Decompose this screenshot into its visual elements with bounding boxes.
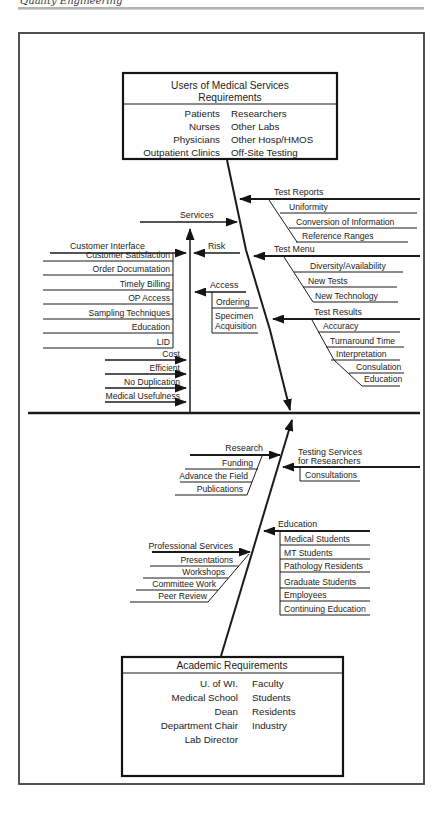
education-item: Pathology Residents [284,561,363,571]
bottom-box-item: Dean [215,706,238,717]
cost-item: No Duplication [124,377,180,387]
bottom-box-item: Lab Director [185,734,239,745]
research-item: Advance the Field [179,471,248,481]
top-box-item: Outpatient Clinics [143,147,220,158]
research-item: Publications [197,484,243,494]
top-box-item: Researchers [231,108,287,119]
test-reports-item: Reference Ranges [302,231,374,241]
bottom-box-item: Residents [252,706,296,717]
access-item: Ordering [216,297,250,307]
cost-branch-group: Cost Efficient No Duplication Medical Us… [105,349,186,402]
customer-interface-item-lines [43,261,173,348]
professional-services-label: Professional Services [148,541,233,551]
top-box-item: Nurses [189,121,220,132]
test-results-item: Education [364,374,402,384]
top-box-item: Patients [185,108,221,119]
access-item: Acquisition [215,321,257,331]
access-label: Access [210,280,239,290]
education-item: Medical Students [284,534,350,544]
test-menu-label: Test Menu [274,244,315,254]
test-reports-branch: Test Reports Uniformity Conversion of In… [240,187,420,242]
test-results-item: Interpretation [336,349,387,359]
test-menu-item: New Technology [315,291,379,301]
education-item: Employees [284,590,327,600]
test-reports-item: Uniformity [289,202,328,212]
bottom-box-item: Industry [252,720,287,731]
services-label: Services [180,210,214,220]
education-item: Continuing Education [284,604,366,614]
professional-services-branch: Professional Services Presentations Work… [130,541,250,602]
test-reports-label: Test Reports [274,187,324,197]
top-rule [18,7,424,10]
testing-services-label-line2: for Researchers [298,456,361,466]
bottom-box-item: U. of WI. [200,678,238,689]
cost-item: Cost [162,349,180,359]
top-box-title-line2: Requirements [198,92,261,103]
access-branch: Access Ordering Specimen Acquisition [195,280,258,333]
ps-item: Peer Review [158,591,208,601]
ci-item: Timely Billing [120,279,171,289]
cost-item: Efficient [150,363,181,373]
bottom-box-item: Medical School [172,692,238,703]
running-header-clipped-text: Quality Engineering [20,0,122,6]
ci-item: Order Documatation [93,264,171,274]
top-box-item: Other Hosp/HMOS [231,134,314,145]
ci-item: Customer Satisfaction [86,250,170,260]
testing-services-item: Consultations [305,470,357,480]
education-item: MT Students [284,548,333,558]
top-box-item: Off-Site Testing [231,147,298,158]
services-branch: Services [140,210,237,222]
testing-services-branch: Testing Services for Researchers Consult… [283,447,420,481]
research-label: Research [225,443,263,453]
ps-item: Committee Work [152,579,217,589]
education-branch: Education Medical Students MT Students P… [264,519,370,615]
ps-item: Workshops [182,567,225,577]
users-of-medical-services-box: Users of Medical Services Requirements P… [123,73,337,159]
test-menu-branch: Test Menu Diversity/Availability New Tes… [254,244,420,302]
top-box-item: Other Labs [231,121,280,132]
research-branch: Research Funding Advance the Field Publi… [175,443,280,495]
ps-item: Presentations [180,555,233,565]
top-box-item: Physicians [173,134,220,145]
bottom-box-title: Academic Requirements [177,660,288,671]
test-menu-item: New Tests [308,276,347,286]
customer-interface-branch: Customer Interface Customer Satisfaction… [43,241,186,348]
fishbone-figure-page: Quality Engineering Users of Medical Ser… [0,0,444,815]
risk-label: Risk [208,241,226,251]
education-item: Graduate Students [284,577,356,587]
fishbone-diagram: Quality Engineering Users of Medical Ser… [0,0,444,815]
research-item: Funding [222,458,253,468]
test-results-branch: Test Results Accuracy Turnaround Time In… [273,307,420,386]
top-box-title-line1: Users of Medical Services [171,80,289,91]
access-item: Specimen [215,311,253,321]
education-label: Education [278,519,317,529]
risk-branch: Risk [194,241,240,253]
test-results-label: Test Results [314,307,363,317]
test-menu-item: Diversity/Availability [310,261,386,271]
test-results-item: Turnaround Time [330,336,395,346]
bottom-box-item: Students [252,692,291,703]
ci-item: LID [157,337,170,347]
ci-item: Sampling Techniques [88,308,170,318]
cost-item: Medical Usefulness [105,391,180,401]
bottom-box-item: Department Chair [161,720,239,731]
test-results-item: Accuracy [323,321,359,331]
test-reports-item: Conversion of Information [296,217,395,227]
test-results-item: Consulation [356,362,402,372]
ci-item: Education [132,322,170,332]
academic-requirements-box: Academic Requirements U. of WI. Medical … [122,657,343,776]
bottom-box-item: Faculty [252,678,284,689]
ci-item: OP Access [128,293,170,303]
